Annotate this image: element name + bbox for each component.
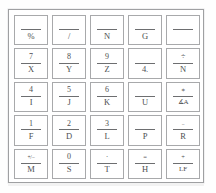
key-bottom-label: T bbox=[105, 165, 110, 175]
key-blank-blank[interactable] bbox=[166, 15, 200, 45]
key-divider-rule bbox=[173, 29, 193, 30]
key-2-d[interactable]: 2 D bbox=[52, 115, 86, 145]
key-face: P bbox=[131, 119, 159, 141]
key-bottom-label: U bbox=[142, 98, 148, 108]
key-9-z[interactable]: 9 Z bbox=[90, 48, 124, 78]
key-bottom-label: M bbox=[27, 165, 34, 175]
key-face: 5 J bbox=[55, 86, 83, 108]
key-face: U bbox=[131, 86, 159, 108]
key-blank-u[interactable]: U bbox=[128, 82, 162, 112]
key-bottom-label: L bbox=[105, 131, 110, 141]
key-asterisk-angle-a[interactable]: ∗ ∡A bbox=[166, 82, 200, 112]
key-bottom-label: I bbox=[30, 98, 33, 108]
key-top-label: ÷ bbox=[181, 53, 185, 62]
key-top-label: 4 bbox=[29, 86, 33, 95]
key-equals-h[interactable]: = H bbox=[128, 149, 162, 179]
key-bottom-label: S bbox=[67, 165, 72, 175]
key-face: = H bbox=[131, 153, 159, 175]
key-divide-n[interactable]: ÷ N bbox=[166, 48, 200, 78]
key-face: 6 K bbox=[93, 86, 121, 108]
key-bottom-label: K bbox=[104, 98, 110, 108]
key-blank-g[interactable]: G bbox=[128, 15, 162, 45]
key-bottom-label: G bbox=[142, 31, 148, 41]
key-face: + LF bbox=[169, 153, 197, 175]
key-bottom-label: Y bbox=[66, 65, 72, 75]
key-face: % bbox=[17, 19, 45, 41]
keypad-panel: % / N G bbox=[8, 9, 204, 183]
key-grid: % / N G bbox=[14, 15, 200, 179]
key-bottom-label: H bbox=[142, 165, 148, 175]
key-top-label: 7 bbox=[29, 53, 33, 62]
key-plusminus-m[interactable]: +/− M bbox=[14, 149, 48, 179]
key-top-label: ∗ bbox=[181, 86, 185, 95]
key-divider-rule bbox=[173, 163, 193, 164]
key-face: ÷ N bbox=[169, 53, 197, 75]
key-top-label: 8 bbox=[67, 53, 71, 62]
key-6-k[interactable]: 6 K bbox=[90, 82, 124, 112]
page-edge-shadow bbox=[8, 183, 204, 186]
key-top-label: + bbox=[181, 153, 184, 162]
key-face: · T bbox=[93, 153, 121, 175]
key-face: 8 Y bbox=[55, 53, 83, 75]
key-0-s[interactable]: 0 S bbox=[52, 149, 86, 179]
key-bottom-label: F bbox=[29, 131, 34, 141]
key-top-label: 6 bbox=[105, 86, 109, 95]
key-face: G bbox=[131, 19, 159, 41]
key-top-label: 9 bbox=[105, 53, 109, 62]
key-face: 3 L bbox=[93, 119, 121, 141]
keypad-figure: % / N G bbox=[0, 0, 216, 193]
key-minus-r[interactable]: − R bbox=[166, 115, 200, 145]
key-face: − R bbox=[169, 119, 197, 141]
key-blank-4dot[interactable]: 4. bbox=[128, 48, 162, 78]
key-top-label: 1 bbox=[29, 119, 33, 128]
key-bottom-label: P bbox=[143, 131, 148, 141]
key-bottom-label: X bbox=[28, 65, 34, 75]
key-5-j[interactable]: 5 J bbox=[52, 82, 86, 112]
key-7-x[interactable]: 7 X bbox=[14, 48, 48, 78]
key-face: 7 X bbox=[17, 53, 45, 75]
key-divider-rule bbox=[173, 96, 193, 97]
key-bottom-label: N bbox=[180, 65, 186, 75]
key-4-i[interactable]: 4 I bbox=[14, 82, 48, 112]
key-3-l[interactable]: 3 L bbox=[90, 115, 124, 145]
key-face: N bbox=[93, 19, 121, 41]
key-top-label: +/− bbox=[27, 153, 34, 162]
key-top-label: 3 bbox=[105, 119, 109, 128]
key-face: 4. bbox=[131, 53, 159, 75]
key-top-label: 0 bbox=[67, 153, 71, 162]
key-blank-p[interactable]: P bbox=[128, 115, 162, 145]
key-bottom-label: LF bbox=[179, 165, 187, 175]
key-top-label: 2 bbox=[67, 119, 71, 128]
key-percent-blank[interactable]: % bbox=[14, 15, 48, 45]
key-face: 1 F bbox=[17, 119, 45, 141]
key-blank-n[interactable]: N bbox=[90, 15, 124, 45]
key-face: 0 S bbox=[55, 153, 83, 175]
key-bottom-label: % bbox=[28, 31, 35, 41]
key-1-f[interactable]: 1 F bbox=[14, 115, 48, 145]
key-plus-lf[interactable]: + LF bbox=[166, 149, 200, 179]
key-bottom-label: D bbox=[66, 131, 72, 141]
key-bottom-label: N bbox=[104, 31, 110, 41]
key-top-label: = bbox=[143, 153, 146, 162]
key-top-label: − bbox=[182, 119, 185, 128]
key-face: ∗ ∡A bbox=[169, 86, 197, 108]
key-face: +/− M bbox=[17, 153, 45, 175]
key-bottom-label: / bbox=[68, 31, 70, 41]
key-top-label: · bbox=[106, 153, 108, 162]
key-bottom-label: R bbox=[180, 131, 185, 141]
key-bottom-label: Z bbox=[105, 65, 110, 75]
key-bottom-label: J bbox=[67, 98, 70, 108]
key-face: 4 I bbox=[17, 86, 45, 108]
key-bottom-label: ∡A bbox=[178, 98, 189, 108]
key-8-y[interactable]: 8 Y bbox=[52, 48, 86, 78]
key-bottom-label: 4. bbox=[142, 65, 148, 75]
key-slash-blank[interactable]: / bbox=[52, 15, 86, 45]
key-top-label: 5 bbox=[67, 86, 71, 95]
key-face: 9 Z bbox=[93, 53, 121, 75]
key-face: / bbox=[55, 19, 83, 41]
key-face: 2 D bbox=[55, 119, 83, 141]
key-decimal-t[interactable]: · T bbox=[90, 149, 124, 179]
key-face bbox=[169, 19, 197, 41]
